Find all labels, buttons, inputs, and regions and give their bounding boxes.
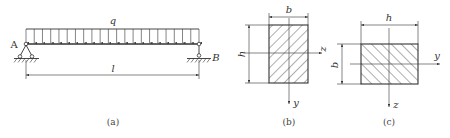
distributed-load-arrows [26,29,199,43]
height-label-h: h [236,51,247,57]
section-rectangle-b [269,25,308,83]
figure-b-cross-section-vertical: b h z y (b) [236,4,328,127]
caption-b: (b) [283,117,296,127]
load-label-q: q [110,15,116,26]
diagram-canvas: q A B l (a) b h z y (b) [0,0,450,138]
axis-label-z: z [392,99,399,110]
pin-support-a [14,42,39,62]
height-label-b: b [329,62,340,68]
span-label-l: l [111,63,114,74]
axis-label-y: y [433,50,440,61]
caption-c: (c) [383,117,395,127]
roller-support-b [187,42,211,62]
figure-a-beam: q A B l (a) [9,15,219,127]
support-label-a: A [9,39,18,50]
width-label-b: b [286,4,292,15]
axis-label-y: y [292,97,299,108]
figure-c-cross-section-horizontal: h b y z (c) [329,12,440,127]
width-label-h: h [386,12,392,23]
axis-label-z: z [317,46,328,53]
caption-a: (a) [107,117,119,127]
support-label-b: B [211,52,219,63]
